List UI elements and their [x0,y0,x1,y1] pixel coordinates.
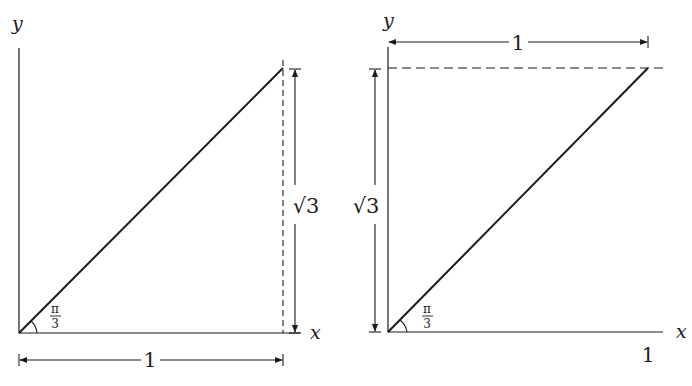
diagram-canvas: y x π 3 √3 1 y x π 3 √3 1 1 [0,0,692,386]
right-angle-den: 3 [423,317,431,331]
left-vertical-dim-label: √3 [293,194,320,218]
left-x-label: x [310,321,321,343]
left-figure [19,48,301,366]
right-figure [369,36,663,332]
right-hypotenuse [388,68,648,332]
left-angle-num: π [51,302,59,316]
left-y-label: y [11,12,23,34]
right-angle-num: π [423,302,431,316]
left-hypotenuse [19,68,283,333]
right-angle-arc [400,320,407,332]
right-horizontal-dim-label: 1 [512,31,525,55]
right-vertical-dim-label: √3 [353,194,380,218]
right-x-tick-label: 1 [642,343,655,367]
right-y-label: y [382,9,394,31]
left-horizontal-dim-label: 1 [144,348,157,372]
right-x-label: x [676,320,687,342]
left-angle-den: 3 [51,317,59,331]
left-angle-arc [31,321,37,333]
